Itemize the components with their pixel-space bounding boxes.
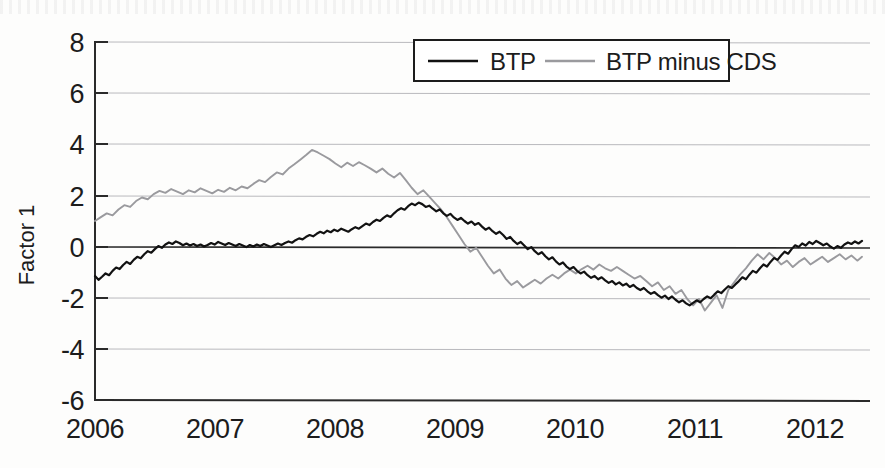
y-tick-label-0: 0 bbox=[69, 233, 84, 263]
x-axis-line bbox=[94, 400, 870, 401]
series-line-btp bbox=[95, 203, 862, 306]
chart-legend: BTP BTP minus CDS bbox=[414, 40, 776, 81]
y-axis-title: Factor 1 bbox=[14, 205, 39, 286]
x-tick-label-2008: 2008 bbox=[306, 414, 364, 444]
gridline-2 bbox=[95, 196, 870, 197]
legend-label-btp-minus-cds: BTP minus CDS bbox=[606, 48, 776, 75]
x-tick-label-2010: 2010 bbox=[546, 414, 604, 444]
y-tick-labels: 8 6 4 2 0 -2 -4 -6 bbox=[61, 28, 84, 416]
y-tick-label-neg6: -6 bbox=[61, 386, 84, 416]
series-line-btp-minus-cds bbox=[95, 150, 862, 311]
gridline-6 bbox=[95, 93, 870, 94]
gridline-4 bbox=[95, 144, 870, 145]
y-tick-marks bbox=[95, 42, 108, 400]
x-tick-label-2011: 2011 bbox=[667, 414, 723, 444]
y-tick-label-neg4: -4 bbox=[61, 335, 84, 365]
gridline-neg4 bbox=[95, 349, 870, 350]
x-tick-label-2009: 2009 bbox=[426, 414, 484, 444]
y-tick-label-2: 2 bbox=[69, 182, 84, 212]
factor1-line-chart: 8 6 4 2 0 -2 -4 -6 2006 2007 2008 2009 2… bbox=[0, 0, 885, 468]
x-tick-labels: 2006 2007 2008 2009 2010 2011 2012 bbox=[66, 414, 844, 444]
zero-line bbox=[95, 247, 870, 248]
gridlines bbox=[95, 42, 870, 350]
y-tick-label-neg2: -2 bbox=[61, 284, 84, 314]
x-tick-label-2007: 2007 bbox=[186, 414, 244, 444]
chart-figure: 8 6 4 2 0 -2 -4 -6 2006 2007 2008 2009 2… bbox=[0, 0, 885, 468]
y-tick-label-8: 8 bbox=[69, 28, 84, 58]
x-tick-label-2012: 2012 bbox=[786, 414, 844, 444]
x-tick-label-2006: 2006 bbox=[66, 414, 124, 444]
legend-label-btp: BTP bbox=[490, 48, 536, 75]
y-tick-label-6: 6 bbox=[69, 79, 84, 109]
y-tick-label-4: 4 bbox=[69, 130, 84, 160]
gridline-neg2 bbox=[95, 298, 870, 299]
